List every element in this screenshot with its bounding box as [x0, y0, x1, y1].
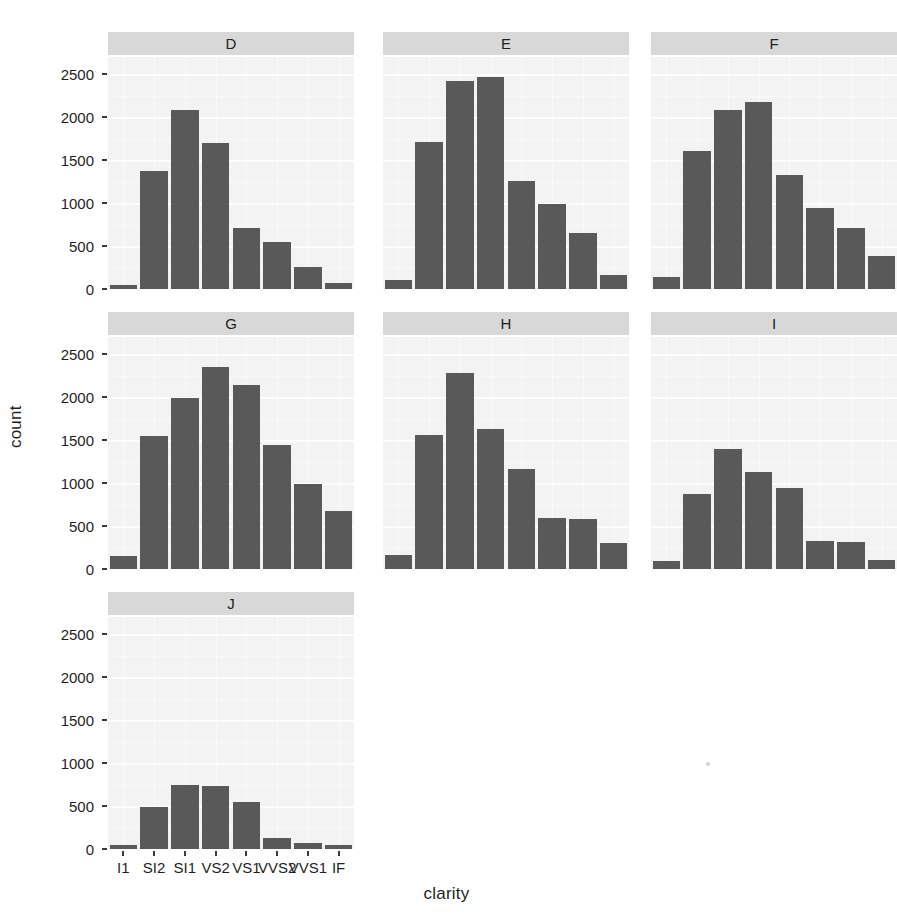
gridline-minor-y [108, 785, 354, 786]
gridline-minor-y [383, 96, 629, 97]
gridline-major-y [651, 440, 897, 442]
gridline-major-y [651, 483, 897, 485]
gridline-major-x [666, 57, 667, 289]
y-axis-tick-mark [102, 633, 107, 635]
gridline-minor-y [651, 419, 897, 420]
bar-d-if [325, 283, 353, 289]
y-axis-tick-mark [102, 719, 107, 721]
bar-d-vs1 [233, 228, 261, 289]
gridline-major-x [123, 57, 124, 289]
bar-g-vs1 [233, 385, 261, 569]
bar-f-si1 [714, 110, 742, 289]
x-axis-tick-label: VS1 [232, 859, 260, 876]
bar-h-if [600, 543, 628, 569]
bar-d-si2 [140, 171, 168, 289]
gridline-major-x [308, 617, 309, 849]
facet-strip-label-j: J [108, 592, 354, 615]
y-axis-tick-label: 500 [0, 518, 94, 535]
y-axis-tick-mark [102, 202, 107, 204]
bar-j-vvs2 [263, 838, 291, 849]
bar-e-vvs2 [538, 204, 566, 289]
bar-e-vvs1 [569, 233, 597, 289]
bar-j-i1 [110, 845, 138, 849]
gridline-major-y [108, 354, 354, 356]
y-axis-tick-mark [102, 762, 107, 764]
y-axis-tick-label: 1000 [0, 755, 94, 772]
gridline-minor-y [383, 419, 629, 420]
gridline-major-x [308, 57, 309, 289]
bar-j-vs2 [202, 786, 230, 849]
gridline-major-x [882, 337, 883, 569]
bar-h-i1 [385, 555, 413, 569]
y-axis-tick-label: 2000 [0, 389, 94, 406]
facet-strip-label-f: F [651, 32, 897, 55]
gridline-major-y [383, 397, 629, 399]
bar-f-vs1 [776, 175, 804, 289]
gridline-major-y [108, 397, 354, 399]
y-axis-tick-label: 1000 [0, 475, 94, 492]
gridline-major-y [108, 74, 354, 76]
bar-i-si2 [683, 494, 711, 569]
facet-panel-h: H [383, 312, 629, 569]
gridline-major-y [108, 720, 354, 722]
gridline-major-x [820, 337, 821, 569]
x-axis-tick-label: SI1 [174, 859, 197, 876]
gridline-major-y [108, 160, 354, 162]
y-axis-tick-mark [102, 288, 107, 290]
facet-panel-j: J [108, 592, 354, 849]
bar-j-si2 [140, 807, 168, 849]
bar-d-vs2 [202, 143, 230, 289]
y-axis-tick-mark [102, 73, 107, 75]
gridline-major-x [614, 337, 615, 569]
facet-strip-label-h: H [383, 312, 629, 335]
bar-i-vvs1 [837, 542, 865, 569]
gridline-minor-y [651, 376, 897, 377]
gridline-minor-y [108, 656, 354, 657]
y-axis-tick-label: 2000 [0, 669, 94, 686]
x-axis-tick-label: IF [332, 859, 345, 876]
x-axis-tick-mark [338, 851, 340, 856]
gridline-major-x [851, 337, 852, 569]
y-axis-tick-mark [102, 159, 107, 161]
y-axis-tick-label: 0 [0, 561, 94, 578]
bar-i-vvs2 [806, 541, 834, 569]
plot-area-i [651, 337, 897, 569]
x-axis-tick-mark [122, 851, 124, 856]
x-axis-tick-label: SI2 [143, 859, 166, 876]
gridline-major-y [383, 74, 629, 76]
bar-h-vs2 [477, 429, 505, 569]
y-axis-tick-mark [102, 568, 107, 570]
bar-g-si2 [140, 436, 168, 569]
bar-j-if [325, 845, 353, 849]
bar-f-if [868, 256, 896, 289]
gridline-major-x [339, 57, 340, 289]
gridline-major-y [108, 763, 354, 765]
scan-artifact-speck [706, 762, 710, 766]
facet-panel-f: F [651, 32, 897, 289]
gridline-minor-y [383, 139, 629, 140]
bar-e-vs1 [508, 181, 536, 289]
bar-e-vs2 [477, 77, 505, 289]
x-axis-tick-mark [153, 851, 155, 856]
bar-h-si2 [415, 435, 443, 569]
gridline-major-y [383, 354, 629, 356]
bar-h-vs1 [508, 469, 536, 569]
x-axis-title: clarity [0, 884, 893, 904]
y-axis-tick-label: 500 [0, 798, 94, 815]
gridline-minor-y [651, 462, 897, 463]
gridline-minor-y [108, 742, 354, 743]
bar-i-if [868, 560, 896, 569]
gridline-major-x [277, 617, 278, 849]
bar-f-vvs1 [837, 228, 865, 289]
gridline-major-y [383, 117, 629, 119]
gridline-minor-y [108, 376, 354, 377]
gridline-major-x [339, 617, 340, 849]
gridline-major-y [108, 634, 354, 636]
bar-f-vs2 [745, 102, 773, 289]
plot-area-h [383, 337, 629, 569]
bar-g-if [325, 511, 353, 570]
y-axis-tick-mark [102, 245, 107, 247]
x-axis-tick-mark [184, 851, 186, 856]
facet-panel-e: E [383, 32, 629, 289]
facet-strip-label-e: E [383, 32, 629, 55]
